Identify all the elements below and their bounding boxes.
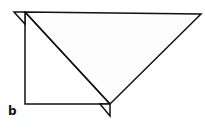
upper-triangle	[25, 12, 201, 104]
top-left-flap	[14, 12, 25, 24]
bottom-flap	[100, 104, 110, 116]
panel-label: b	[8, 104, 17, 118]
fold-diagram	[0, 0, 205, 136]
